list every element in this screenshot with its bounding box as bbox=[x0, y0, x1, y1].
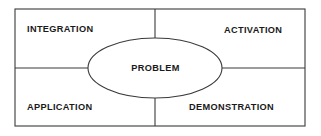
quadrant-label-integration: INTEGRATION bbox=[27, 24, 93, 34]
quadrant-label-application: APPLICATION bbox=[27, 102, 92, 112]
diagram-canvas: INTEGRATION ACTIVATION APPLICATION DEMON… bbox=[0, 0, 321, 136]
center-label-problem: PROBLEM bbox=[0, 63, 311, 73]
quadrant-label-activation: ACTIVATION bbox=[224, 25, 282, 35]
quadrant-label-demonstration: DEMONSTRATION bbox=[189, 102, 274, 112]
